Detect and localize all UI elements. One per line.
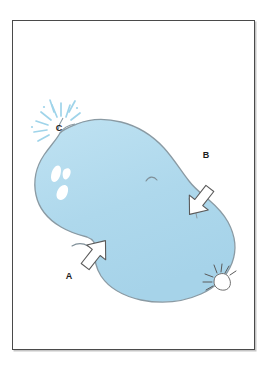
figure-root: A B C Whale body-part labelling diagram [0,0,271,373]
label-a: A [66,271,73,281]
belly-crease [72,244,88,246]
figure-frame: A B C Whale body-part labelling diagram [12,20,255,350]
label-c: C [56,123,63,133]
label-b: B [203,150,210,160]
whale-diagram: A B C [13,21,256,351]
